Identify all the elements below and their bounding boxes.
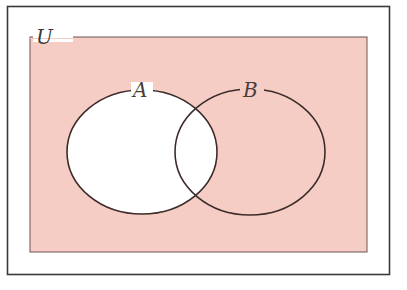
set-a-label: A: [131, 78, 147, 102]
set-b-label: B: [242, 78, 258, 102]
venn-diagram: U A B: [0, 0, 407, 290]
universe-label: U: [36, 25, 54, 49]
